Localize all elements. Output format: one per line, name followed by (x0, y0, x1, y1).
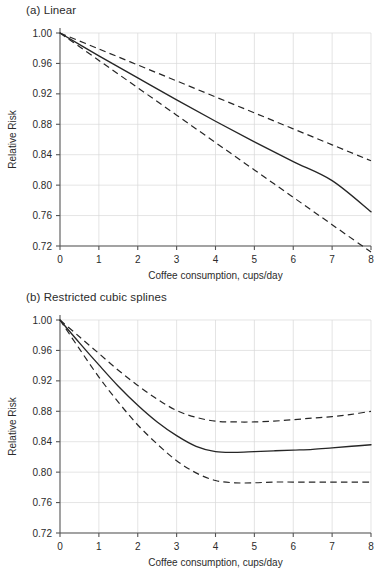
x-tick-label-0: 0 (57, 254, 63, 265)
y-tick-label-0.84: 0.84 (33, 436, 53, 447)
x-tick-label-7: 7 (329, 541, 335, 552)
y-axis-title: Relative Risk (7, 109, 18, 168)
x-tick-label-0: 0 (57, 541, 63, 552)
panel-b-plot: 0.720.760.800.840.880.920.961.0001234567… (0, 287, 385, 574)
y-tick-label-0.72: 0.72 (33, 528, 53, 539)
panel-a-plot: 0.720.760.800.840.880.920.961.0001234567… (0, 0, 385, 287)
figure-container: (a) Linear 0.720.760.800.840.880.920.961… (0, 0, 385, 574)
x-tick-label-4: 4 (213, 541, 219, 552)
x-axis-title: Coffee consumption, cups/day (148, 270, 282, 281)
x-axis-title: Coffee consumption, cups/day (148, 557, 282, 568)
y-axis-title: Relative Risk (7, 396, 18, 455)
x-tick-label-8: 8 (368, 254, 374, 265)
x-tick-label-3: 3 (174, 254, 180, 265)
y-tick-label-0.80: 0.80 (33, 180, 53, 191)
y-tick-label-0.92: 0.92 (33, 88, 53, 99)
y-tick-label-0.96: 0.96 (33, 345, 53, 356)
x-tick-label-5: 5 (252, 541, 258, 552)
y-tick-label-0.80: 0.80 (33, 467, 53, 478)
y-tick-label-1.00: 1.00 (33, 28, 53, 39)
x-tick-label-1: 1 (96, 541, 102, 552)
y-tick-label-0.88: 0.88 (33, 406, 53, 417)
y-tick-label-1.00: 1.00 (33, 315, 53, 326)
x-tick-label-2: 2 (135, 541, 141, 552)
y-tick-label-0.96: 0.96 (33, 58, 53, 69)
y-tick-label-0.88: 0.88 (33, 119, 53, 130)
y-tick-label-0.84: 0.84 (33, 149, 53, 160)
x-tick-label-3: 3 (174, 541, 180, 552)
x-tick-label-5: 5 (252, 254, 258, 265)
x-tick-label-8: 8 (368, 541, 374, 552)
x-tick-label-7: 7 (329, 254, 335, 265)
x-tick-label-4: 4 (213, 254, 219, 265)
y-tick-label-0.92: 0.92 (33, 375, 53, 386)
x-tick-label-6: 6 (290, 254, 296, 265)
y-tick-label-0.76: 0.76 (33, 210, 53, 221)
y-tick-label-0.76: 0.76 (33, 497, 53, 508)
x-tick-label-2: 2 (135, 254, 141, 265)
y-tick-label-0.72: 0.72 (33, 241, 53, 252)
x-tick-label-6: 6 (290, 541, 296, 552)
panel-linear: (a) Linear 0.720.760.800.840.880.920.961… (0, 0, 385, 287)
panel-splines: (b) Restricted cubic splines 0.720.760.8… (0, 287, 385, 574)
x-tick-label-1: 1 (96, 254, 102, 265)
